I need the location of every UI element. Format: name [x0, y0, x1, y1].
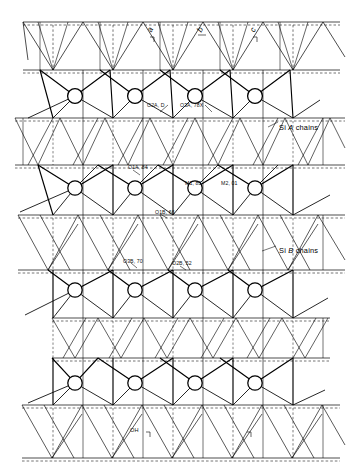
- atom-label-o3b: O3B, 70: [123, 259, 143, 264]
- cation-circle: [248, 283, 262, 297]
- si-a-prefix: Si: [279, 123, 288, 132]
- cation-circle: [248, 181, 262, 195]
- atom-label-o1b: O1B, 66: [155, 210, 175, 215]
- atom-label-o2a: O2A, D: [147, 103, 165, 108]
- atom-label-m1: M1, 85: [185, 181, 201, 186]
- cation-circle: [68, 89, 83, 104]
- si-b-suffix: chains: [293, 246, 318, 255]
- cation-circle: [188, 283, 202, 297]
- cation-band-3: [25, 270, 328, 318]
- si-b-chains-label: Si B chains: [279, 247, 318, 254]
- cation-band-4: [28, 358, 325, 405]
- tet-band-top: [23, 22, 345, 73]
- structure-drawing: [0, 0, 353, 470]
- atom-label-oh: OH: [130, 428, 139, 434]
- axis-leaders: [150, 35, 257, 42]
- cation-circle: [128, 89, 143, 104]
- cation-circle: [248, 376, 262, 390]
- si-a-chains-label: Si A chains: [279, 124, 318, 131]
- tet-band-bottom: [22, 405, 345, 461]
- cation-circle: [68, 283, 82, 297]
- tet-band-4: [52, 318, 330, 361]
- cation-band-2: [20, 165, 330, 215]
- cation-circle: [128, 181, 142, 195]
- cation-band-1: [28, 70, 320, 118]
- cation-circle: [128, 283, 142, 297]
- atom-label-o1a: O1A, 84: [128, 165, 148, 170]
- atom-label-o2b: O2B, 52: [172, 261, 192, 266]
- cation-circle: [128, 376, 142, 390]
- cation-circle: [188, 376, 202, 390]
- cation-circle: [68, 376, 82, 390]
- atom-label-o3a: O3A, 78X: [180, 103, 203, 108]
- crystal-structure-figure: a b c Si A chains Si B chains O2A, D O3A…: [0, 0, 353, 470]
- cation-circle: [248, 89, 263, 104]
- cation-circle: [68, 181, 82, 195]
- si-b-prefix: Si: [279, 246, 288, 255]
- si-a-suffix: chains: [293, 123, 318, 132]
- atom-label-m2: M2, 01: [221, 181, 237, 186]
